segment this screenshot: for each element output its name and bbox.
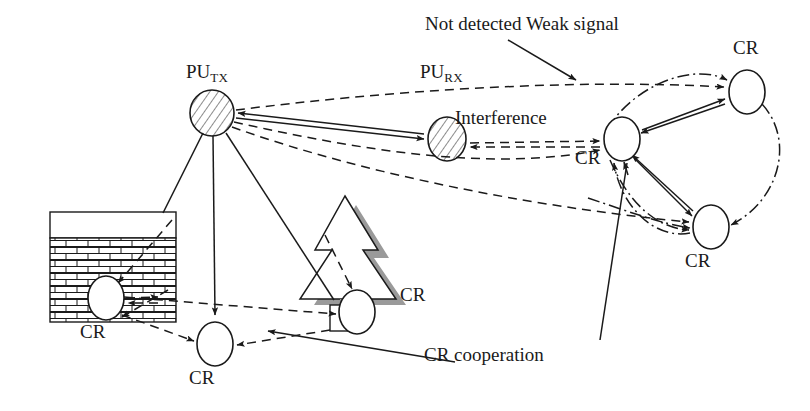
annotation-interference: Interference [455,108,547,127]
node-pu-tx[interactable] [190,90,234,136]
node-label-cr-bottom: CR [189,368,214,387]
node-label-cr-mid: CR [575,148,600,167]
link-interference-to-crmid [470,141,600,143]
diagram-vector-layer [0,0,810,411]
node-cr-bottom[interactable] [197,322,233,366]
link-crtop-crmid [641,104,725,133]
node-label-cr-tree: CR [400,285,425,304]
node-cr-mid[interactable] [604,117,640,161]
node-label-pu-rx: PURX [420,62,463,81]
annotation-not-detected: Not detected Weak signal [425,14,619,33]
diagram-canvas: PUTX PURX CR CR CR CR CR CR Not detected… [0,0,810,411]
node-label-cr-low: CR [685,251,710,270]
node-cr-top[interactable] [729,70,765,114]
node-label-cr-building: CR [80,322,105,341]
node-label-cr-top: CR [733,38,758,57]
node-cr-low[interactable] [693,205,729,249]
link-crmid-crtop [642,99,725,130]
node-cr-tree[interactable] [339,290,375,334]
link-putx-tree [226,133,334,300]
link-putx-bottomcr [213,136,215,315]
solid-signal-links [163,40,725,362]
link-putx-building [163,133,203,213]
link-crmid-crlow [634,158,692,216]
leader-not-detected [508,40,576,80]
link-crtree-crbottom [237,330,330,345]
coop-crtop-crlow [731,104,780,225]
coop-lower-feed [588,198,690,228]
network-nodes [88,70,765,366]
node-label-pu-tx: PUTX [186,62,228,81]
annotation-cr-cooperation: CR cooperation [424,345,544,364]
link-crlow-crmid [632,155,693,211]
link-purx-putx [238,113,424,134]
node-cr-building[interactable] [88,276,124,320]
leader-cooperation-to-crmid [600,163,627,340]
